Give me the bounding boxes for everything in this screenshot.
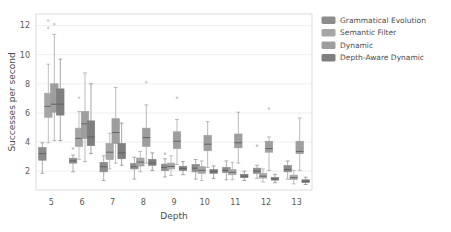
box-rect	[87, 121, 94, 146]
x-tick-label: 9	[171, 198, 176, 207]
y-tick-label: 12	[20, 21, 30, 30]
y-tick-label: 2	[25, 167, 30, 176]
legend-label: Depth-Aware Dynamic	[340, 53, 424, 62]
box-rect	[204, 135, 211, 150]
box-rect	[173, 132, 180, 149]
x-tick-label: 12	[261, 198, 271, 207]
chart-legend: Grammatical EvolutionSemantic FilterDyna…	[322, 16, 426, 63]
legend-swatch	[322, 42, 335, 49]
box-rect	[265, 141, 272, 152]
x-tick-label: 13	[292, 198, 302, 207]
y-axis-title: Successes per second	[7, 52, 17, 151]
legend-swatch	[322, 17, 335, 24]
x-tick-label: 11	[230, 198, 240, 207]
box-rect	[235, 134, 242, 148]
y-tick-label: 6	[25, 109, 30, 118]
y-axis-tick-labels: 24681012	[20, 21, 30, 175]
box-rect	[106, 143, 113, 159]
x-tick-label: 6	[79, 198, 84, 207]
box-rect	[118, 143, 125, 158]
chart-figure: 24681012 5678910111213 Successes per sec…	[0, 0, 451, 232]
legend-label: Semantic Filter	[340, 28, 397, 37]
legend-label: Grammatical Evolution	[340, 16, 426, 25]
legend-swatch	[322, 55, 335, 62]
box-rect	[259, 173, 266, 178]
y-tick-label: 8	[25, 80, 30, 89]
x-tick-label: 5	[49, 198, 54, 207]
y-tick-label: 4	[25, 138, 30, 147]
box-rect	[284, 166, 291, 172]
box-rect	[149, 159, 156, 165]
legend-swatch	[322, 30, 335, 37]
x-tick-label: 8	[141, 198, 146, 207]
legend-label: Dynamic	[340, 41, 373, 50]
x-axis-title: Depth	[160, 211, 187, 221]
x-axis-tick-labels: 5678910111213	[49, 198, 302, 207]
box-rect	[57, 89, 64, 115]
y-tick-label: 10	[20, 51, 30, 60]
box-rect	[112, 119, 119, 144]
x-tick-label: 7	[110, 198, 115, 207]
x-tick-label: 10	[200, 198, 210, 207]
boxplot-svg: 24681012 5678910111213 Successes per sec…	[0, 0, 451, 232]
